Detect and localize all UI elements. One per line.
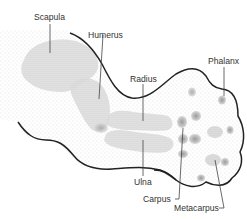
label-radius: Radius: [130, 74, 157, 84]
humerus-head: [94, 123, 108, 133]
phalanx-bone: [221, 158, 229, 166]
label-phalanx: Phalanx: [208, 56, 240, 66]
metacarpal-bone: [207, 126, 223, 138]
label-carpus: Carpus: [143, 194, 171, 204]
label-ulna: Ulna: [134, 177, 152, 187]
metacarpal-bone: [205, 154, 221, 166]
flipper-bone-diagram: Scapula Humerus Radius Phalanx Ulna Carp…: [0, 0, 247, 219]
label-metacarpus: Metacarpus: [174, 203, 219, 213]
label-humerus: Humerus: [88, 30, 123, 40]
metacarpal-bone: [188, 88, 196, 97]
carpal-bone: [189, 134, 201, 144]
phalanx-bone: [197, 175, 205, 182]
carpal-bone: [178, 150, 188, 158]
label-scapula: Scapula: [34, 12, 65, 22]
carpal-bone: [178, 134, 188, 144]
phalanx-bone: [227, 126, 234, 134]
carpal-bone: [177, 116, 187, 128]
carpal-bone: [191, 111, 201, 121]
phalanx-bone: [218, 96, 226, 105]
